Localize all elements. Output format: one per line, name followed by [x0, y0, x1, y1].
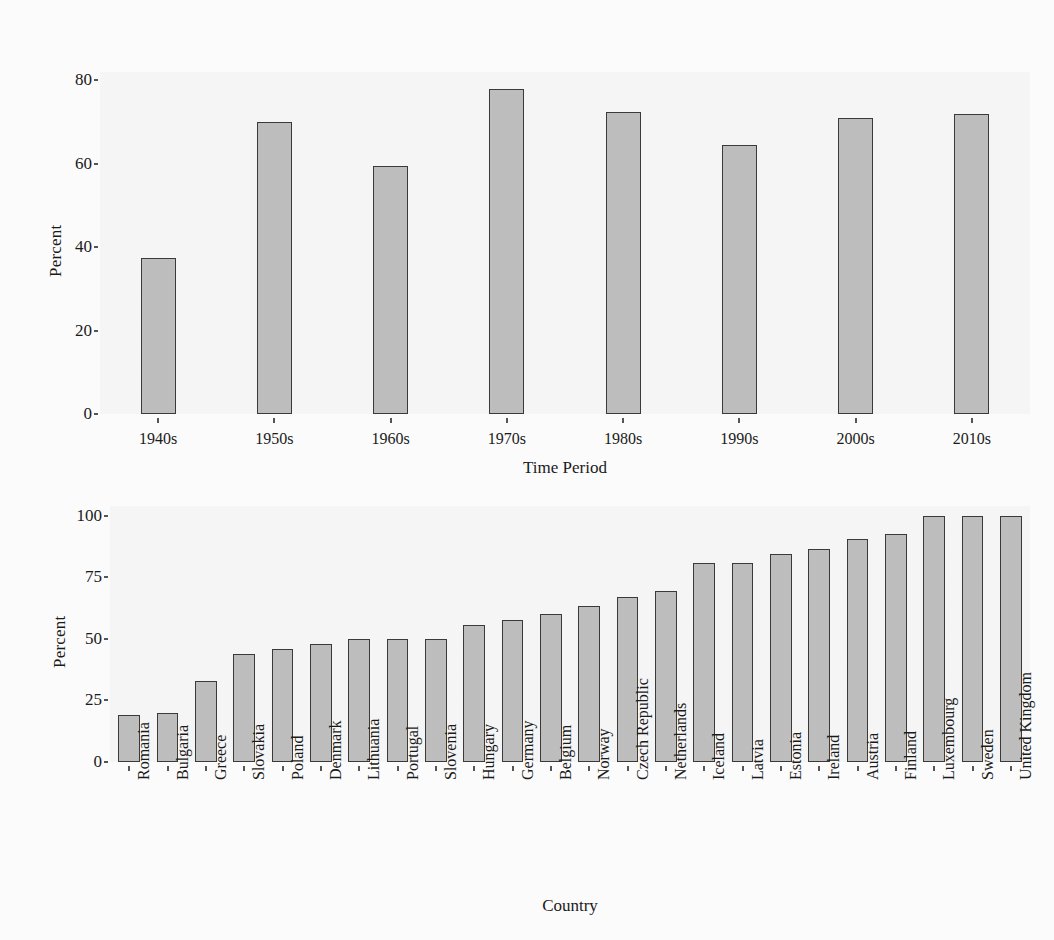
x-tick-label: Denmark [327, 720, 345, 780]
y-tick-mark [94, 330, 98, 332]
x-tick-label: 1950s [255, 430, 293, 448]
chart-panel-country: Percent 0255075100 RomaniaBulgariaGreece… [0, 486, 1054, 940]
x-axis-label-time-period: Time Period [100, 458, 1030, 478]
x-tick-label: 1970s [488, 430, 526, 448]
x-tick-mark [390, 418, 392, 423]
x-tick-label: Estonia [787, 732, 805, 780]
chart-panel-time-period: Percent 020406080 1940s1950s1960s1970s19… [0, 0, 1054, 490]
y-tick-label: 75 [68, 567, 102, 587]
x-tick-mark [971, 418, 973, 423]
x-tick-label: Sweden [979, 729, 997, 780]
x-tick-mark [473, 766, 475, 771]
x-tick-mark [1010, 766, 1012, 771]
y-tick-mark [94, 246, 98, 248]
x-tick-mark [435, 766, 437, 771]
x-tick-mark [780, 766, 782, 771]
bar [838, 118, 873, 414]
x-tick-label: Hungary [480, 724, 498, 780]
x-tick-mark [855, 418, 857, 423]
y-tick-label: 0 [68, 752, 102, 772]
y-tick-mark [94, 413, 98, 415]
y-tick-label: 60 [58, 154, 92, 174]
x-tick-label: 1990s [720, 430, 758, 448]
x-tick-label: Finland [902, 731, 920, 780]
x-tick-mark [588, 766, 590, 771]
x-tick-label: Austria [864, 733, 882, 780]
x-tick-mark [703, 766, 705, 771]
figure-canvas: Percent 020406080 1940s1950s1960s1970s19… [0, 0, 1054, 940]
x-tick-mark [738, 418, 740, 423]
x-tick-mark [128, 766, 130, 771]
y-tick-mark [104, 576, 108, 578]
x-tick-mark [627, 766, 629, 771]
x-tick-mark [665, 766, 667, 771]
y-tick-mark [104, 638, 108, 640]
x-tick-label: Ireland [825, 735, 843, 780]
x-tick-mark [273, 418, 275, 423]
y-tick-mark [104, 699, 108, 701]
x-tick-label: Slovenia [442, 724, 460, 780]
x-tick-mark [243, 766, 245, 771]
x-tick-label: Greece [212, 735, 230, 780]
y-tick-label: 80 [58, 70, 92, 90]
bar [373, 166, 408, 414]
x-tick-label: 1960s [372, 430, 410, 448]
plot-area-time-period [100, 72, 1030, 414]
x-tick-label: Poland [289, 736, 307, 780]
x-tick-label: Romania [135, 722, 153, 780]
x-tick-label: Latvia [749, 739, 767, 780]
x-tick-label: Luxembourg [940, 698, 958, 780]
x-tick-label: Netherlands [672, 703, 690, 780]
x-tick-mark [933, 766, 935, 771]
x-tick-mark [358, 766, 360, 771]
y-tick-label: 25 [68, 690, 102, 710]
x-tick-mark [972, 766, 974, 771]
x-tick-mark [857, 766, 859, 771]
x-tick-mark [742, 766, 744, 771]
bar [257, 122, 292, 414]
y-tick-label: 20 [58, 321, 92, 341]
x-tick-label: 1940s [139, 430, 177, 448]
x-tick-mark [205, 766, 207, 771]
x-tick-label: Czech Republic [634, 678, 652, 780]
x-tick-label: Bulgaria [174, 725, 192, 780]
bar [732, 563, 753, 762]
bar [847, 539, 868, 762]
x-tick-mark [167, 766, 169, 771]
x-tick-mark [506, 418, 508, 423]
y-tick-label: 100 [68, 506, 102, 526]
x-tick-label: 2010s [953, 430, 991, 448]
bar [606, 112, 641, 414]
bar [808, 549, 829, 762]
bar [885, 534, 906, 762]
x-tick-mark [622, 418, 624, 423]
x-tick-label: Iceland [710, 733, 728, 780]
x-tick-label: Portugal [404, 726, 422, 780]
x-tick-label: Belgium [557, 725, 575, 780]
x-tick-mark [818, 766, 820, 771]
bar [770, 554, 791, 762]
x-tick-label: Germany [519, 720, 537, 780]
x-tick-mark [895, 766, 897, 771]
x-tick-label: Slovakia [250, 724, 268, 780]
y-tick-label: 0 [58, 404, 92, 424]
x-tick-label: 1980s [604, 430, 642, 448]
x-tick-mark [282, 766, 284, 771]
y-tick-label: 50 [68, 629, 102, 649]
x-tick-mark [157, 418, 159, 423]
x-tick-mark [512, 766, 514, 771]
x-tick-label: Norway [595, 728, 613, 780]
x-tick-mark [320, 766, 322, 771]
y-tick-mark [104, 761, 108, 763]
bar [141, 258, 176, 414]
x-tick-label: 2000s [837, 430, 875, 448]
x-tick-label: United Kingdom [1017, 672, 1035, 780]
bar [722, 145, 757, 414]
bar [962, 516, 983, 762]
x-tick-mark [550, 766, 552, 771]
bar [954, 114, 989, 414]
y-tick-mark [94, 79, 98, 81]
x-tick-label: Lithuania [365, 719, 383, 780]
y-tick-mark [104, 515, 108, 517]
x-axis-label-country: Country [110, 896, 1030, 916]
